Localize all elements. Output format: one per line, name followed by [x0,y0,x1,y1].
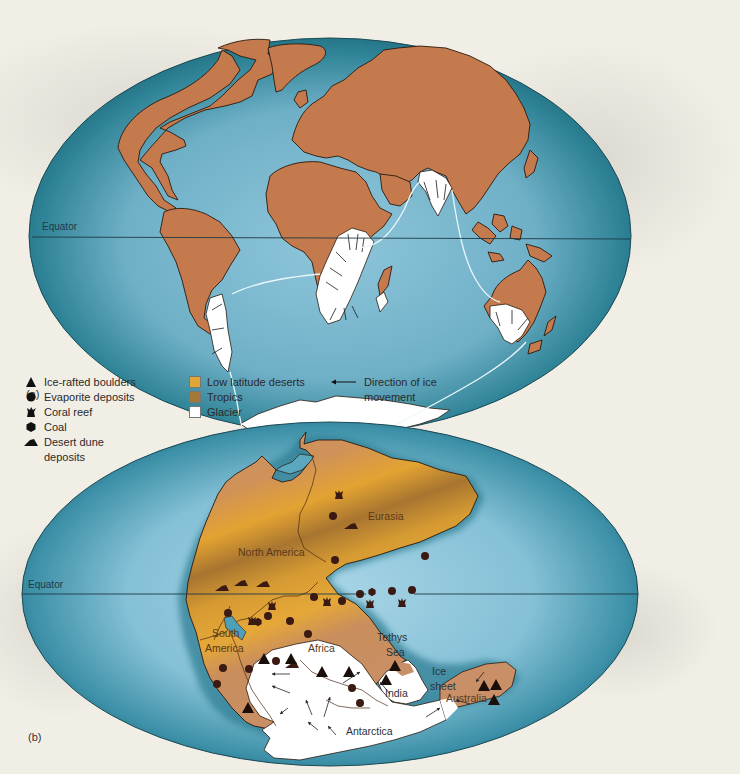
evaporite-symbol [356,590,364,598]
evaporite-symbol [310,593,318,601]
label-ice-sheet-1: Ice [432,665,446,677]
evaporite-symbol [338,597,346,605]
evaporite-symbol [286,617,294,625]
evaporite-symbol [264,612,272,620]
label-tethys-1: Tethys [377,631,407,643]
evaporite-symbol [224,609,232,617]
label-africa: Africa [308,642,335,654]
evaporite-symbol [408,586,416,594]
label-south-america-1: South [212,627,240,639]
evaporite-symbol [348,684,356,692]
evaporite-symbol [356,699,364,707]
evaporite-symbol [304,630,312,638]
evaporite-symbol [421,552,429,560]
label-ice-sheet-2: sheet [430,680,456,692]
label-australia: Australia [446,692,487,704]
equator-label-b: Equator [28,579,64,590]
label-eurasia: Eurasia [368,510,404,522]
evaporite-symbol [388,587,396,595]
label-antarctica: Antarctica [346,725,393,737]
evaporite-symbol [213,680,221,688]
evaporite-symbol [245,665,253,673]
panel-label-b: (b) [28,731,41,743]
label-north-america: North America [238,546,305,558]
label-india: India [385,687,408,699]
evaporite-symbol [329,512,337,520]
evaporite-symbol [272,657,280,665]
label-south-america-2: America [205,642,244,654]
label-tethys-2: Sea [386,646,405,658]
evaporite-symbol [331,556,339,564]
evaporite-symbol [219,664,227,672]
